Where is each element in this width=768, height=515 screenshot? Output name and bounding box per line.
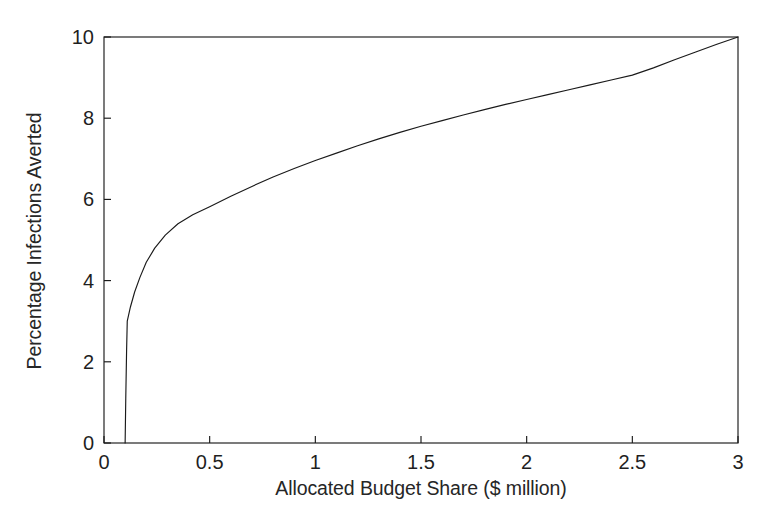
x-tick-label: 2.5 [597, 452, 667, 472]
x-axis-tick-labels: 00.511.522.53 [0, 0, 768, 515]
x-tick-label: 1.5 [386, 452, 456, 472]
x-tick-label: 3 [703, 452, 768, 472]
x-tick-label: 0.5 [175, 452, 245, 472]
x-tick-label: 1 [280, 452, 350, 472]
chart-figure: Percentage Infections Averted Allocated … [0, 0, 768, 515]
x-tick-label: 2 [492, 452, 562, 472]
x-tick-label: 0 [69, 452, 139, 472]
